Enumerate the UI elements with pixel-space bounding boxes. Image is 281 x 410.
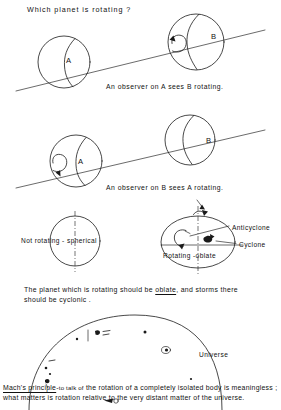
galaxy-spiral — [95, 330, 100, 335]
rotation-spiral-a-panel2 — [53, 154, 67, 171]
galaxy-tail — [46, 384, 48, 388]
rotation-axis-panel2 — [16, 130, 265, 188]
anticyclone-tail — [185, 231, 190, 234]
star-dot — [144, 331, 147, 334]
mach-inline-circle — [114, 399, 118, 403]
axis-rotation-arrowhead — [202, 210, 208, 216]
galaxy-core — [165, 348, 168, 351]
axis-rotation-arc — [194, 211, 205, 214]
stray-arrowhead-panel2 — [200, 205, 206, 210]
sphere-a-meridian-panel1 — [64, 39, 75, 87]
sphere-b-meridian-panel2 — [183, 115, 194, 164]
star-dot — [45, 367, 48, 370]
star-dot — [190, 378, 192, 380]
star-dot — [76, 338, 78, 340]
galaxy-streak — [49, 360, 55, 361]
star-dot — [49, 373, 51, 375]
galaxy-streak — [103, 334, 109, 335]
sphere-a-meridian-panel2 — [76, 138, 86, 186]
mach-inline-arrow — [104, 399, 113, 404]
sphere-b-meridian-panel1 — [187, 14, 199, 69]
galaxy-spiral — [45, 379, 50, 383]
anticyclone-arrowhead — [179, 244, 185, 250]
universe-arc — [29, 315, 222, 410]
leader-anticyclone — [190, 226, 229, 236]
leader-cyclone — [216, 241, 236, 244]
figure-root: Which planet is rotating ? An observer o… — [0, 0, 281, 410]
cyclone-arrowhead — [210, 234, 215, 240]
sphere-a-panel1 — [38, 36, 90, 88]
rotation-axis-panel1 — [16, 30, 265, 91]
figure-linework — [0, 0, 281, 410]
sphere-b-panel2 — [165, 115, 215, 165]
galaxy-streak — [103, 331, 110, 332]
